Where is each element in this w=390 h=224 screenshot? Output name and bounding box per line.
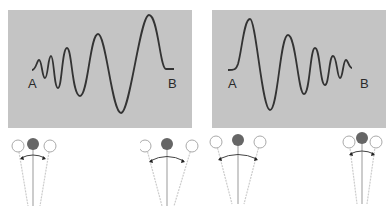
wave-panel-left: A B xyxy=(8,10,192,128)
pendulum-small-left xyxy=(8,138,58,208)
label-end: B xyxy=(360,76,369,91)
bob-ghost-icon xyxy=(343,136,355,148)
bob-ghost-icon xyxy=(186,140,198,152)
bob-ghost-icon xyxy=(140,140,151,152)
label-end: B xyxy=(168,76,177,91)
wave-panel-right: A B xyxy=(212,10,386,128)
label-start: A xyxy=(28,76,37,91)
bob-ghost-icon xyxy=(12,140,24,152)
label-start: A xyxy=(228,76,237,91)
pendulum-small-right xyxy=(340,132,386,206)
pendulum-large-right xyxy=(208,134,270,206)
bob-icon xyxy=(161,138,173,150)
bob-icon xyxy=(356,132,368,144)
wave-curve-right xyxy=(212,10,386,128)
wave-curve-left xyxy=(8,10,192,128)
bob-icon xyxy=(232,134,244,146)
bob-ghost-icon xyxy=(44,140,56,152)
pendulum-large-left xyxy=(140,138,202,208)
bob-ghost-icon xyxy=(370,136,382,148)
bob-ghost-icon xyxy=(210,136,222,148)
bob-ghost-icon xyxy=(254,136,266,148)
bob-icon xyxy=(27,138,39,150)
